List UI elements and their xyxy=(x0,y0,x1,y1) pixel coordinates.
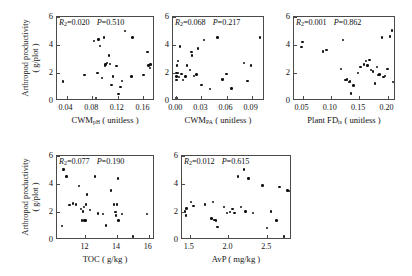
data-point xyxy=(349,80,351,82)
data-point xyxy=(226,212,228,214)
data-point xyxy=(191,54,193,56)
x-tick-label: 0.04 xyxy=(52,103,80,112)
data-point xyxy=(190,201,192,203)
data-point xyxy=(301,41,303,43)
y-tick-label: 4 xyxy=(164,179,178,188)
y-tick-label: 0 xyxy=(276,96,290,105)
data-point xyxy=(244,210,246,212)
x-tick-mark xyxy=(303,96,304,99)
data-point xyxy=(392,81,394,83)
data-point xyxy=(110,84,112,86)
x-tick-mark xyxy=(118,96,119,99)
data-point xyxy=(101,77,103,79)
figure-panel-grid: Arthropod productivity( g/plot )Arthropo… xyxy=(0,0,412,276)
data-point xyxy=(381,36,383,38)
x-axis-variable-name: Plant FD xyxy=(307,115,338,125)
data-point xyxy=(115,65,117,67)
stats-annotation-panel-2: R2=0.068P=0.217 xyxy=(175,18,240,27)
data-point xyxy=(110,189,112,191)
x-tick-label: 2.0 xyxy=(213,242,241,251)
data-point xyxy=(229,211,231,213)
data-point xyxy=(97,212,99,214)
data-point xyxy=(204,203,206,205)
x-tick-label: 0.16 xyxy=(128,103,156,112)
data-point xyxy=(149,63,151,65)
data-point xyxy=(237,175,239,177)
data-point xyxy=(182,79,184,81)
data-point xyxy=(180,73,182,75)
data-point xyxy=(131,36,133,38)
plot-area-panel-3 xyxy=(293,16,395,100)
data-point xyxy=(342,39,344,41)
data-point xyxy=(357,72,359,74)
data-point xyxy=(384,75,386,77)
data-point xyxy=(363,63,365,65)
plot-area-panel-5 xyxy=(181,155,291,239)
y-tick-label: 0 xyxy=(39,96,53,105)
x-tick-label: 2.5 xyxy=(252,242,280,251)
y-tick-label: 6 xyxy=(276,12,290,21)
data-point xyxy=(179,45,181,47)
data-point xyxy=(210,217,212,219)
data-point xyxy=(84,219,86,221)
y-tick-label: 4 xyxy=(276,40,290,49)
data-point xyxy=(216,36,218,38)
data-point xyxy=(246,80,248,82)
y-tick-label: 0 xyxy=(155,96,169,105)
y-tick-label: 0 xyxy=(39,235,53,244)
data-point xyxy=(376,66,378,68)
y-tick-label: 4 xyxy=(39,179,53,188)
x-tick-mark xyxy=(201,96,202,99)
r-squared-value: =0.001 xyxy=(304,18,327,27)
data-point xyxy=(212,201,214,203)
data-point xyxy=(223,206,225,208)
data-point xyxy=(247,177,249,179)
y-tick-mark xyxy=(182,184,185,185)
data-point xyxy=(93,40,95,42)
data-point xyxy=(176,64,178,66)
x-tick-mark xyxy=(331,96,332,99)
data-point xyxy=(300,46,302,48)
data-point xyxy=(288,190,290,192)
x-tick-label: 0.12 xyxy=(103,103,131,112)
x-axis-unit: ( mg/kg ) xyxy=(226,254,260,264)
data-point xyxy=(61,225,63,227)
stats-annotation-panel-4: R2=0.077P=0.190 xyxy=(59,157,124,166)
data-point xyxy=(62,80,64,82)
data-point xyxy=(82,210,84,212)
data-point xyxy=(146,51,148,53)
y-tick-mark xyxy=(182,212,185,213)
data-point xyxy=(86,193,88,195)
data-point xyxy=(391,29,393,31)
data-point xyxy=(78,185,80,187)
data-point xyxy=(359,66,361,68)
x-tick-mark xyxy=(227,96,228,99)
data-point xyxy=(225,73,227,75)
y-axis-label-line1: Arthropod productivity xyxy=(21,19,32,96)
data-point xyxy=(62,168,64,170)
data-point xyxy=(190,51,192,53)
x-axis-variable-name: AvP xyxy=(212,254,226,264)
data-point xyxy=(89,209,91,211)
data-point xyxy=(270,210,272,212)
data-point xyxy=(68,204,70,206)
data-point xyxy=(275,219,277,221)
y-tick-mark xyxy=(173,73,176,74)
data-point xyxy=(192,205,194,207)
data-point xyxy=(350,92,352,94)
data-point xyxy=(233,212,235,214)
y-tick-label: 2 xyxy=(164,207,178,216)
data-point xyxy=(216,226,218,228)
data-point xyxy=(215,219,217,221)
data-point xyxy=(108,54,110,56)
r-squared-value: =0.012 xyxy=(192,157,215,166)
data-point xyxy=(325,49,327,51)
data-point xyxy=(386,68,388,70)
x-tick-label: 1.5 xyxy=(175,242,203,251)
data-point xyxy=(102,213,104,215)
x-tick-mark xyxy=(67,96,68,99)
data-point xyxy=(184,75,186,77)
p-value: =0.190 xyxy=(102,157,125,166)
x-tick-label: 0.10 xyxy=(316,103,344,112)
data-point xyxy=(95,97,97,99)
